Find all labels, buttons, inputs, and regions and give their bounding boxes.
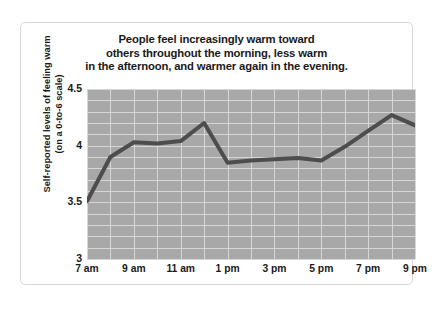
- x-axis-tick-label: 5 pm: [309, 263, 333, 274]
- data-series-line: [87, 89, 415, 259]
- y-axis-tick-label: 4.5: [67, 82, 82, 94]
- x-axis-tick-label: 1 pm: [216, 263, 240, 274]
- x-axis-tick-label: 9 pm: [403, 263, 427, 274]
- x-axis-tick-label: 7 pm: [356, 263, 380, 274]
- x-axis-tick-label: 7 am: [75, 263, 98, 274]
- gridline-horizontal: [87, 259, 415, 260]
- x-axis-tick-label: 11 am: [166, 263, 195, 274]
- x-axis-ticks: 7 am9 am11 am1 pm3 pm5 pm7 pm9 pm: [87, 263, 415, 279]
- plot-area: [87, 89, 415, 259]
- x-axis-tick-label: 3 pm: [262, 263, 286, 274]
- gridline-vertical: [415, 89, 416, 259]
- y-axis-tick-label: 4: [76, 139, 82, 151]
- y-axis-tick-label: 3.5: [67, 195, 82, 207]
- chart-figure: People feel increasingly warm toward oth…: [20, 22, 413, 285]
- y-axis-ticks: 33.544.5: [49, 23, 82, 286]
- x-axis-tick-label: 9 am: [122, 263, 145, 274]
